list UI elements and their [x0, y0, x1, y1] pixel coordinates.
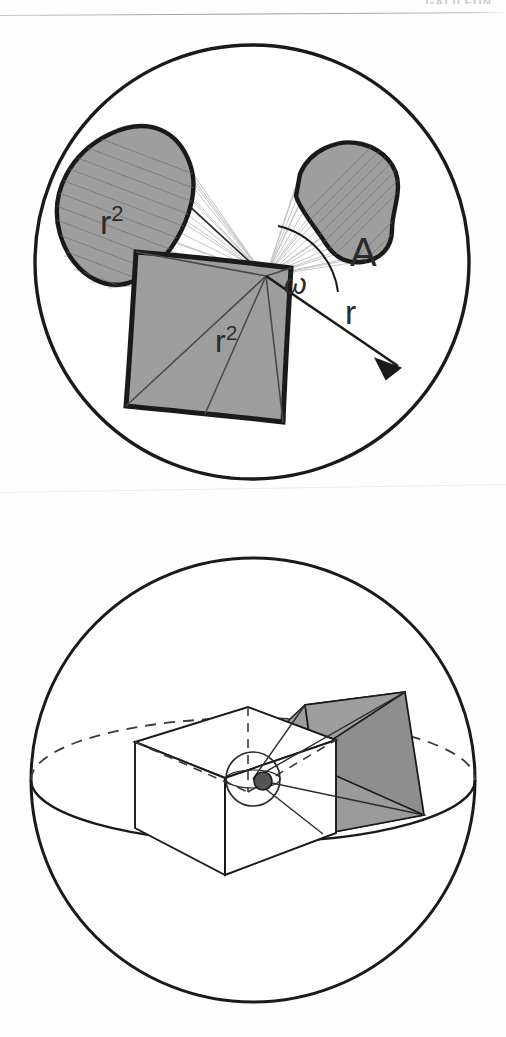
label-r: r — [345, 293, 356, 331]
center-point — [254, 772, 272, 790]
label-A: A — [350, 230, 377, 274]
label-omega: ω — [284, 268, 307, 300]
scanned-page: GALILEON — [0, 0, 506, 1037]
header-rule — [0, 12, 506, 16]
running-head: GALILEON — [426, 0, 492, 4]
figure-steradian-3d — [0, 530, 506, 1030]
figure-solid-angle-2d: r2 A ω r r2 — [0, 34, 506, 494]
